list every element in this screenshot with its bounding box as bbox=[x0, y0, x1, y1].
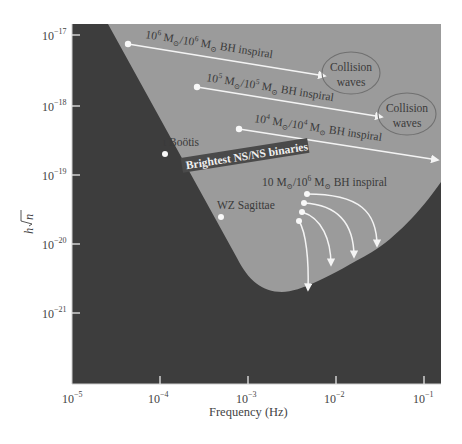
gw-sensitivity-chart: 10−17 10−18 10−19 10−20 10−21 10−5 10−4 … bbox=[0, 0, 462, 444]
y-tick-label: 10−19 bbox=[42, 167, 67, 183]
x-tick-label: 10−4 bbox=[148, 390, 169, 406]
svg-text:waves: waves bbox=[393, 117, 422, 129]
svg-text:ι Boötis: ι Boötis bbox=[163, 136, 200, 148]
x-tick-label: 10−3 bbox=[236, 390, 257, 406]
y-tick-label: 10−21 bbox=[42, 305, 67, 321]
svg-text:n: n bbox=[22, 214, 36, 220]
y-tick-label: 10−18 bbox=[42, 98, 67, 114]
x-tick-label: 10−1 bbox=[413, 390, 434, 406]
svg-text:Collision: Collision bbox=[330, 61, 372, 73]
svg-text:Collision: Collision bbox=[386, 102, 428, 114]
svg-text:waves: waves bbox=[337, 76, 366, 88]
svg-text:WZ Sagittae: WZ Sagittae bbox=[217, 199, 275, 212]
y-tick-label: 10−17 bbox=[42, 27, 67, 43]
x-tick-label: 10−2 bbox=[324, 390, 345, 406]
svg-text:h: h bbox=[22, 228, 36, 234]
x-tick-label: 10−5 bbox=[62, 390, 83, 406]
y-axis-title: h n bbox=[21, 210, 36, 234]
x-axis-title: Frequency (Hz) bbox=[209, 405, 288, 419]
y-tick-label: 10−20 bbox=[42, 236, 67, 252]
